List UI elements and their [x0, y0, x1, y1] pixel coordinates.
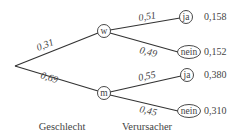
prob-w: 0,31	[35, 36, 55, 53]
prob-m: 0,69	[39, 69, 59, 85]
prob-w-ja: 0,51	[138, 9, 157, 23]
node-w: w	[101, 26, 108, 36]
edge-root-w	[15, 33, 98, 66]
probability-tree: 0,31 0,69 0,51 0,49 0,55 0,45 w m ja nei…	[0, 0, 240, 136]
level1-label: Geschlecht	[39, 121, 86, 132]
prob-w-nein: 0,49	[139, 44, 159, 59]
prob-m-ja: 0,55	[137, 69, 156, 83]
level2-label: Verursacher	[122, 121, 173, 132]
node-m-ja: ja	[183, 70, 192, 80]
node-m: m	[100, 88, 108, 98]
node-m-nein: nein	[181, 106, 198, 116]
result-w-ja: 0,158	[204, 11, 227, 22]
result-w-nein: 0,152	[204, 46, 227, 57]
node-w-nein: nein	[181, 47, 198, 57]
result-m-nein: 0,310	[204, 105, 227, 116]
result-m-ja: 0,380	[204, 69, 227, 80]
node-w-ja: ja	[182, 12, 191, 22]
